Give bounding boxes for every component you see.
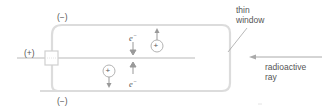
thin-window-line1: thin: [236, 5, 264, 15]
geiger-tube-diagram: [0, 0, 336, 109]
electron-arrow-top: [130, 42, 136, 55]
electron-label-top: e−: [129, 32, 137, 43]
cathode-top-label: (−): [57, 12, 68, 22]
electron-arrow-bottom: [130, 62, 136, 74]
anode-label: (+): [24, 48, 35, 58]
radioactive-ray-label: radioactive ray: [265, 62, 306, 82]
radioactive-ray-arrow: [249, 55, 322, 60]
cathode-bottom-label: (−): [57, 96, 68, 106]
ray-label-line2: ray: [265, 72, 306, 82]
ion-plus-sign: +: [106, 66, 111, 76]
ray-label-line1: radioactive: [265, 62, 306, 72]
electron-label-bottom: e−: [129, 78, 137, 89]
thin-window-label: thin window: [236, 5, 264, 25]
electron-charge: −: [133, 32, 137, 38]
ion-plus-sign: +: [154, 41, 159, 51]
electron-charge: −: [133, 78, 137, 84]
thin-window-line2: window: [236, 15, 264, 25]
